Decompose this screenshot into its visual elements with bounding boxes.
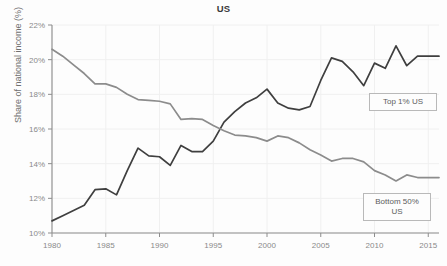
y-axis-tick-labels: 10%12%14%16%18%20%22% bbox=[29, 21, 45, 238]
x-axis-tick-labels: 19801985199019952000200520102015 bbox=[43, 241, 438, 250]
legend-top1-text: Top 1% US bbox=[383, 97, 423, 106]
x-tick-2010: 2010 bbox=[366, 241, 384, 250]
legend-bottom50-text-line1: Bottom 50% bbox=[375, 197, 419, 206]
x-tick-1990: 1990 bbox=[151, 241, 169, 250]
legend-label-bottom-50-percent[interactable]: Bottom 50% US bbox=[363, 193, 431, 221]
x-tick-2000: 2000 bbox=[258, 241, 276, 250]
legend-bottom50-text-line2: US bbox=[391, 207, 402, 216]
x-tick-2015: 2015 bbox=[419, 241, 437, 250]
legend-label-top-1-percent[interactable]: Top 1% US bbox=[369, 93, 437, 111]
series-line-bottom-50-us bbox=[52, 49, 439, 181]
chart-figure: US Share of national income (%) 10%12%14… bbox=[0, 0, 447, 266]
y-tick-20%: 20% bbox=[29, 56, 45, 65]
y-tick-12%: 12% bbox=[29, 194, 45, 203]
plot-area: 10%12%14%16%18%20%22% 198019851990199520… bbox=[0, 0, 447, 266]
y-tick-22%: 22% bbox=[29, 21, 45, 30]
x-tick-2005: 2005 bbox=[312, 241, 330, 250]
y-tick-10%: 10% bbox=[29, 229, 45, 238]
y-tick-14%: 14% bbox=[29, 160, 45, 169]
x-tick-1980: 1980 bbox=[43, 241, 61, 250]
x-tick-1985: 1985 bbox=[97, 241, 115, 250]
x-tick-1995: 1995 bbox=[204, 241, 222, 250]
y-tick-18%: 18% bbox=[29, 90, 45, 99]
y-tick-16%: 16% bbox=[29, 125, 45, 134]
